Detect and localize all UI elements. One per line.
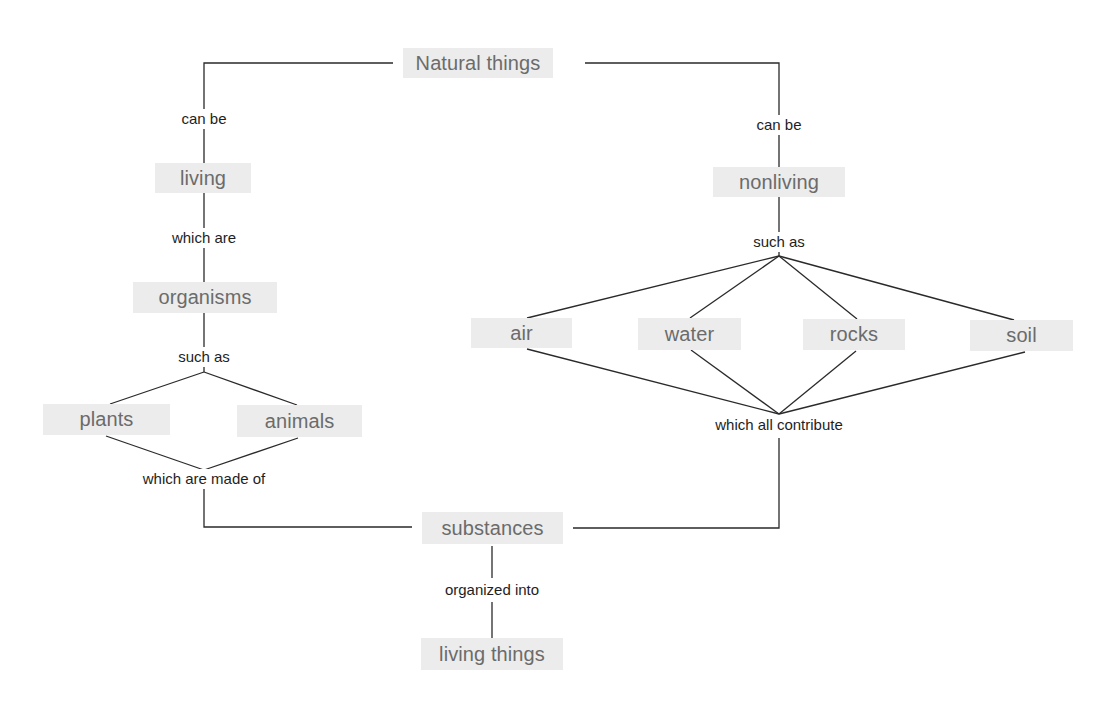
line-such-as-to-air xyxy=(527,256,779,318)
line-such-as-to-soil xyxy=(779,256,1014,320)
concept-soil: soil xyxy=(970,320,1073,351)
line-such-as-to-rocks xyxy=(779,256,857,319)
concept-organisms: organisms xyxy=(133,282,277,313)
concept-map: Natural things living organisms plants a… xyxy=(0,0,1100,704)
concept-air: air xyxy=(471,318,572,348)
line-made-of-to-substances xyxy=(204,488,412,527)
concept-living: living xyxy=(155,163,251,193)
line-contribute-to-substances xyxy=(573,438,779,528)
line-natural-to-nonliving xyxy=(585,63,779,167)
link-which-are-made-of: which are made of xyxy=(140,469,269,489)
link-can-be-right: can be xyxy=(753,115,804,135)
link-such-as-left: such as xyxy=(175,347,233,367)
concept-nonliving: nonliving xyxy=(713,167,845,197)
concept-rocks: rocks xyxy=(803,319,905,350)
line-animals-to-made-of xyxy=(204,438,298,470)
concept-plants: plants xyxy=(43,404,170,435)
link-organized-into: organized into xyxy=(442,580,542,600)
connector-lines xyxy=(0,0,1100,704)
concept-natural-things: Natural things xyxy=(403,48,553,78)
line-such-as-to-water xyxy=(690,256,779,318)
line-natural-to-living xyxy=(204,63,393,163)
link-which-are: which are xyxy=(169,228,239,248)
line-plants-to-made-of xyxy=(106,436,204,470)
line-water-to-contribute xyxy=(691,350,779,414)
concept-substances: substances xyxy=(422,512,563,544)
line-such-as-to-plants xyxy=(110,372,204,404)
link-such-as-right: such as xyxy=(750,232,808,252)
concept-living-things: living things xyxy=(421,638,563,670)
link-can-be-left: can be xyxy=(178,109,229,129)
concept-water: water xyxy=(638,318,741,350)
concept-animals: animals xyxy=(237,405,362,437)
line-such-as-to-animals xyxy=(204,372,297,405)
link-which-all-contribute: which all contribute xyxy=(712,415,846,435)
line-air-to-contribute xyxy=(527,349,779,414)
